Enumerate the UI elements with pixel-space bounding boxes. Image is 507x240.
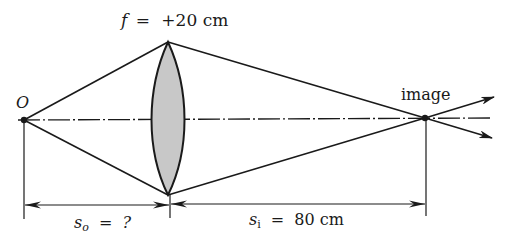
ray-object-to-lens-bottom [24,120,168,195]
lens-ray-diagram: f = +20 cm O image so = ? si = 80 cm [0,0,507,240]
image-label: image [401,85,451,104]
image-point [422,115,428,121]
ray-lens-top-to-image [168,42,425,118]
ray-lens-bottom-to-image [168,118,425,195]
object-label: O [16,93,29,112]
ray-object-to-lens-top [24,42,168,120]
ray-continuation-lower-arrow [425,118,492,138]
focal-length-label: f = +20 cm [119,10,228,30]
converging-lens [152,42,185,195]
image-distance-label: si = 80 cm [249,210,344,232]
object-distance-label: so = ? [74,213,131,235]
